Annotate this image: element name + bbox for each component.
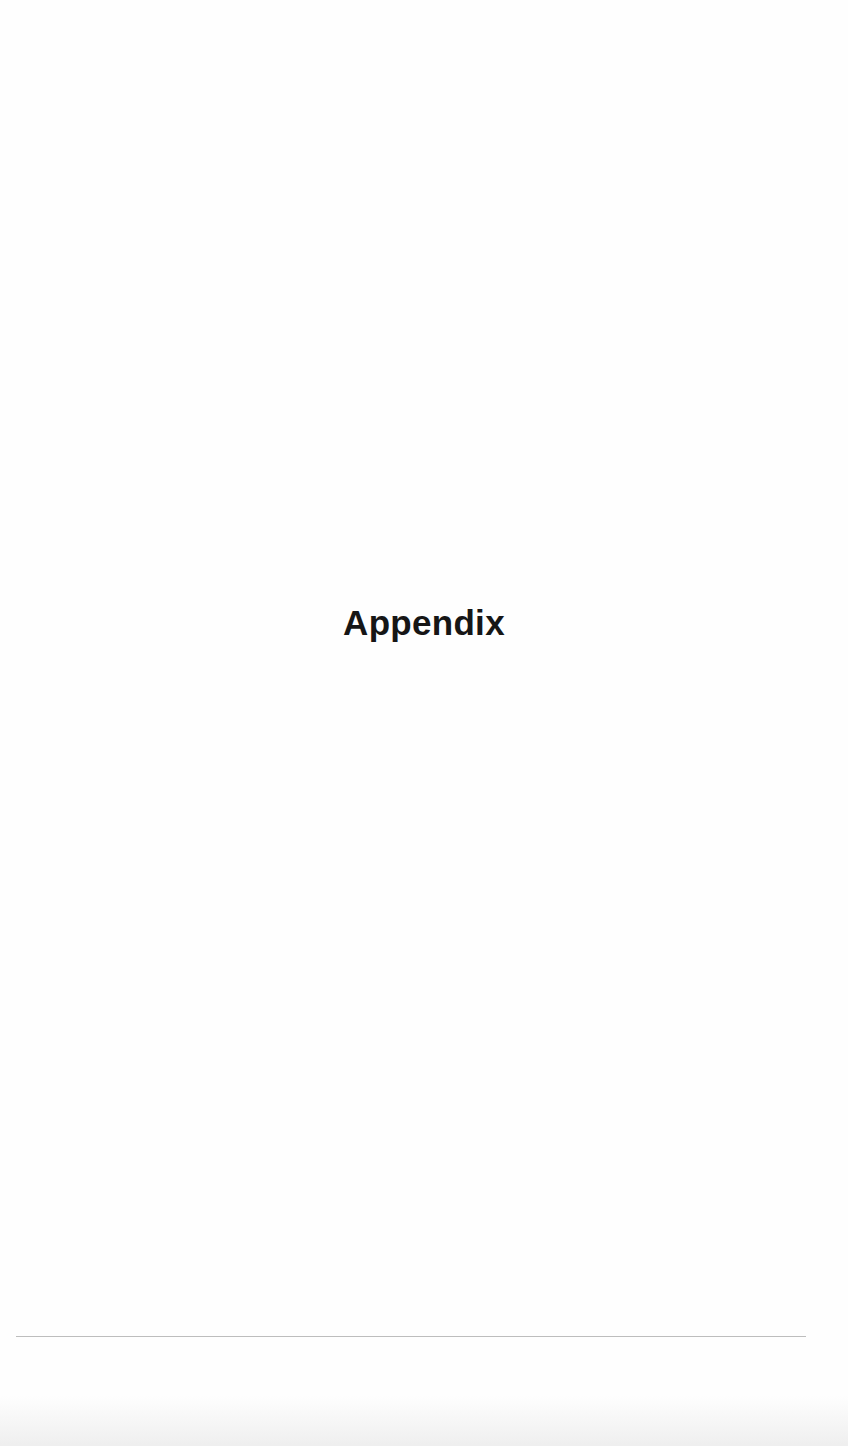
footer-divider [16, 1336, 806, 1337]
document-page: Appendix [0, 0, 848, 1446]
scan-edge-shadow [0, 1396, 848, 1446]
page-title: Appendix [0, 601, 848, 645]
